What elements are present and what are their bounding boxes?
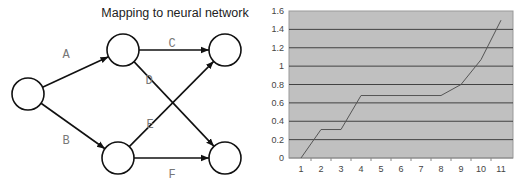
diagram-nodes [12,34,241,174]
edge-label-e: E [146,118,153,132]
x-tick-label: 6 [398,164,403,174]
edge-b [41,103,105,148]
edge-label-d: D [145,74,152,88]
x-tick-label: 4 [358,164,363,174]
x-tick-label: 2 [318,164,323,174]
node-output-top [209,34,241,66]
node-hidden-top [107,34,139,66]
x-tick-label: 5 [378,164,383,174]
x-tick-label: 10 [476,164,486,174]
edge-a [43,57,109,88]
x-tick-label: 9 [458,164,463,174]
edge-label-b: B [62,134,69,148]
y-tick-label: 0.4 [271,116,284,126]
edge-label-f: F [168,168,175,182]
y-tick-label: 1.4 [271,24,284,34]
node-input [12,78,44,110]
node-output-bottom [209,142,241,174]
edge-label-c: C [168,37,175,51]
y-tick-label: 0 [279,153,284,163]
x-tick-label: 1 [298,164,303,174]
y-tick-label: 1 [279,61,284,71]
edge-e [129,61,213,146]
node-hidden-bottom [102,142,134,174]
x-tick-label: 8 [438,164,443,174]
y-tick-label: 0.8 [271,80,284,90]
neural-network-diagram: Mapping to neural network ABCDEF [0,0,265,185]
x-tick-label: 7 [418,164,423,174]
edge-label-a: A [62,48,70,62]
y-tick-label: 1.6 [271,6,284,16]
x-tick-label: 3 [338,164,343,174]
x-tick-label: 11 [496,164,505,174]
diagram-title: Mapping to neural network [101,6,249,20]
line-chart: 00.20.40.60.811.21.41.6 1234567891011 [265,0,528,185]
x-axis-ticks: 1234567891011 [298,158,505,174]
y-axis-ticks: 00.20.40.60.811.21.41.6 [271,6,284,163]
y-tick-label: 0.2 [271,135,284,145]
y-tick-label: 0.6 [271,98,284,108]
y-tick-label: 1.2 [271,43,284,53]
